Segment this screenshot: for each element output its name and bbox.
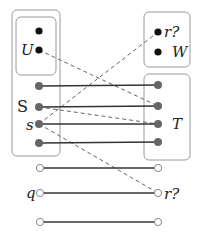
node-o3: [36, 218, 43, 225]
label-W: W: [172, 43, 189, 61]
label-q: q: [26, 184, 36, 202]
node-u1: [35, 27, 42, 34]
node-l4: [35, 139, 43, 147]
label-U: U: [21, 41, 35, 59]
dashed-edge-U-T: [39, 50, 158, 106]
node-U: [35, 46, 42, 53]
node-p1: [154, 164, 161, 171]
node-r-top: [154, 28, 161, 35]
node-o1: [36, 164, 43, 171]
node-t2: [154, 102, 162, 110]
node-t1: [154, 81, 162, 89]
label-S: S: [17, 97, 28, 116]
label-s: s: [26, 116, 34, 134]
solid-edge: [39, 142, 158, 143]
matching-diagram: U S s T r? W q r?: [0, 0, 202, 236]
node-r-bottom: [154, 189, 161, 196]
label-r-bottom: r?: [164, 185, 180, 203]
solid-edge: [39, 85, 158, 86]
node-s: [35, 120, 43, 128]
T-box: [144, 74, 190, 160]
dashed-edges: [39, 32, 158, 193]
node-l1: [35, 82, 43, 90]
dashed-edge-S-T: [39, 107, 158, 124]
node-t4: [154, 138, 162, 146]
label-r-top: r?: [164, 23, 180, 41]
node-t3: [154, 120, 162, 128]
node-q: [36, 189, 43, 196]
label-T: T: [172, 115, 183, 133]
dashed-edge-s-rbottom: [39, 124, 158, 193]
solid-edges: [39, 85, 158, 222]
node-W: [154, 48, 161, 55]
node-S: [35, 103, 43, 111]
solid-edge: [39, 106, 158, 107]
node-p3: [154, 218, 161, 225]
